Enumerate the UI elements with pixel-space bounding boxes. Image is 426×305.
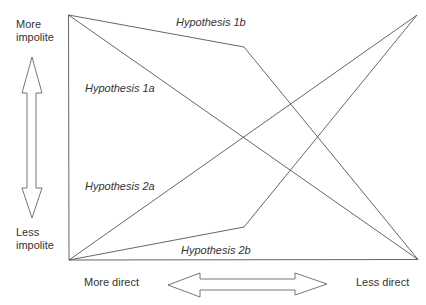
y-axis-bottom-label: Less impolite [16,226,54,252]
vertical-double-arrow-icon [22,57,42,218]
horizontal-double-arrow-icon [168,273,327,297]
hypothesis-2a-label: Hypothesis 2a [85,180,155,193]
hypothesis-1b-label: Hypothesis 1b [176,16,246,29]
y-axis [69,15,70,260]
x-axis [69,260,418,261]
y-top-label-line2: impolite [16,31,54,44]
y-top-label-line1: More [16,18,54,31]
x-axis-right-label: Less direct [356,276,409,289]
hypothesis-2b-label: Hypothesis 2b [181,244,251,257]
y-axis-top-label: More impolite [16,18,54,44]
y-bottom-label-line1: Less [16,226,54,239]
hypothesis-diagram [0,0,426,305]
x-axis-left-label: More direct [84,276,139,289]
hypothesis-1a-label: Hypothesis 1a [85,82,155,95]
y-bottom-label-line2: impolite [16,239,54,252]
